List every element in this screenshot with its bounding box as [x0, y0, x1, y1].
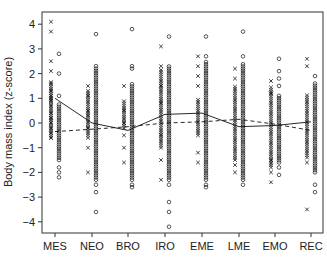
x-marker: [49, 89, 53, 93]
y-tick-label: −3: [22, 191, 35, 203]
o-marker: [277, 57, 281, 61]
x-marker: [122, 99, 126, 103]
x-marker: [233, 77, 237, 81]
x-tick-label-rec: REC: [299, 240, 322, 252]
o-marker: [130, 82, 134, 86]
x-marker: [159, 158, 163, 162]
x-marker: [122, 134, 126, 138]
y-tick-label: −1: [22, 142, 35, 154]
o-marker: [277, 166, 281, 170]
x-marker: [86, 114, 90, 118]
x-marker: [305, 57, 309, 61]
x-marker: [86, 146, 90, 150]
x-marker: [159, 64, 163, 68]
o-marker: [94, 190, 98, 194]
y-tick-label: 3: [29, 43, 35, 55]
x-marker: [86, 89, 90, 93]
x-tick-label-iro: IRO: [155, 240, 175, 252]
bmi-chart: −4−3−2−101234 MESNEOBROIROEMELMEEMOREC B…: [0, 0, 327, 257]
x-marker: [122, 84, 126, 88]
x-marker: [159, 178, 163, 182]
x-marker: [305, 208, 309, 212]
o-marker: [57, 166, 61, 170]
o-marker: [130, 64, 134, 68]
o-marker: [130, 27, 134, 31]
o-marker: [241, 62, 245, 66]
x-marker: [49, 69, 53, 73]
x-marker: [196, 74, 200, 78]
x-marker: [305, 94, 309, 98]
x-marker: [269, 86, 273, 90]
x-marker: [49, 59, 53, 63]
o-marker: [313, 183, 317, 187]
o-marker: [94, 64, 98, 68]
o-marker: [277, 94, 281, 98]
o-marker: [204, 35, 208, 39]
x-marker: [86, 109, 90, 113]
o-marker: [57, 72, 61, 76]
y-tick-label: 1: [29, 92, 35, 104]
o-marker: [57, 171, 61, 175]
x-tick-label-lme: LME: [228, 240, 251, 252]
o-marker: [57, 52, 61, 56]
o-marker: [204, 55, 208, 59]
y-tick-label: −2: [22, 166, 35, 178]
x-marker: [196, 151, 200, 155]
o-marker: [277, 173, 281, 177]
y-axis: −4−3−2−101234: [22, 18, 42, 228]
x-marker: [159, 101, 163, 105]
x-marker: [196, 64, 200, 68]
o-marker: [313, 74, 317, 78]
o-marker: [57, 176, 61, 180]
x-marker: [49, 20, 53, 24]
x-marker: [49, 116, 53, 120]
o-marker: [241, 55, 245, 59]
o-marker: [277, 84, 281, 88]
x-marker: [269, 79, 273, 83]
x-marker: [305, 161, 309, 165]
o-marker: [167, 35, 171, 39]
o-marker: [167, 65, 171, 69]
x-tick-label-eme: EME: [190, 240, 214, 252]
x-marker: [159, 68, 163, 72]
x-marker: [269, 180, 273, 184]
x-marker: [233, 85, 237, 89]
x-marker: [86, 136, 90, 140]
x-marker: [233, 171, 237, 175]
x-marker: [305, 64, 309, 68]
y-tick-label: −4: [22, 216, 35, 228]
x-marker: [122, 161, 126, 165]
x-marker: [49, 111, 53, 115]
x-marker: [49, 136, 53, 140]
x-marker: [269, 171, 273, 175]
x-marker: [159, 45, 163, 49]
x-marker: [122, 146, 126, 150]
o-marker: [94, 32, 98, 36]
x-axis: MESNEOBROIROEMELMEEMOREC: [43, 233, 323, 252]
x-marker: [196, 98, 200, 102]
x-tick-label-emo: EMO: [262, 240, 288, 252]
x-marker: [86, 84, 90, 88]
x-marker: [49, 30, 53, 34]
o-marker: [94, 210, 98, 214]
o-marker: [241, 183, 245, 187]
x-tick-label-mes: MES: [43, 240, 67, 252]
y-tick-label: 2: [29, 68, 35, 80]
o-marker: [277, 69, 281, 73]
o-marker: [313, 82, 317, 86]
x-tick-label-neo: NEO: [80, 240, 104, 252]
o-marker: [241, 30, 245, 34]
x-marker: [196, 84, 200, 88]
o-marker: [204, 185, 208, 189]
o-marker: [204, 60, 208, 64]
o-marker: [167, 210, 171, 214]
o-marker: [94, 183, 98, 187]
o-marker: [57, 94, 61, 98]
y-tick-label: 0: [29, 117, 35, 129]
o-marker: [277, 77, 281, 81]
x-marker: [196, 161, 200, 165]
y-tick-label: 4: [29, 18, 35, 30]
o-marker: [167, 183, 171, 187]
o-marker: [167, 200, 171, 204]
x-marker: [196, 55, 200, 59]
